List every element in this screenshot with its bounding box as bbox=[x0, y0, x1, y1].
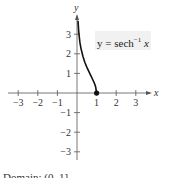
y-tick-label: −2 bbox=[60, 127, 71, 138]
x-tick-label: 3 bbox=[133, 97, 138, 108]
endpoint-markers bbox=[94, 90, 99, 95]
y-tick-label: −1 bbox=[60, 107, 71, 118]
y-tick-label: 2 bbox=[66, 48, 71, 59]
function-label-text: y = sech bbox=[97, 37, 134, 49]
domain-caption: Domain: (0, 1] bbox=[3, 171, 68, 178]
x-tick-label: 2 bbox=[114, 97, 119, 108]
x-tick-label: −2 bbox=[32, 97, 43, 108]
y-tick-label: 1 bbox=[66, 68, 71, 79]
y-tick-label: −3 bbox=[60, 146, 71, 157]
x-axis-arrow-icon bbox=[146, 91, 152, 95]
curve-sech-inverse bbox=[78, 21, 97, 93]
point-marker bbox=[94, 90, 99, 95]
chart: x y −3−2−1123 −3−2−1123 bbox=[0, 0, 170, 178]
x-tick-label: −3 bbox=[13, 97, 24, 108]
y-axis-label: y bbox=[73, 2, 79, 13]
x-axis-label: x bbox=[153, 87, 159, 98]
y-axis-arrow-icon bbox=[75, 14, 79, 20]
function-label: y = sech−1 x bbox=[95, 31, 151, 50]
function-label-variable: x bbox=[144, 37, 149, 49]
function-label-superscript: −1 bbox=[134, 36, 141, 44]
x-tick-label: 1 bbox=[94, 97, 99, 108]
y-tick-label: 3 bbox=[66, 29, 71, 40]
